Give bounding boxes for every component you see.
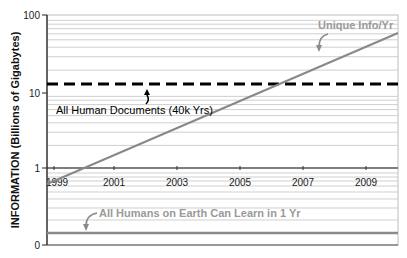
y-tick-label-1: 1 <box>34 163 40 174</box>
x-tick-label-2007: 2007 <box>292 177 315 188</box>
y-axis-title: INFORMATION (Billions of Gigabytes) <box>9 31 21 228</box>
y-tick-label-10: 10 <box>29 88 41 99</box>
annotation-unique-info: Unique Info/Yr <box>318 19 394 31</box>
information-chart: 100 10 1 0 INFORMATION (Billions of Giga… <box>0 0 407 258</box>
y-tick-label-0: 0 <box>34 240 40 251</box>
annotation-all-human-documents: All Human Documents (40k Yrs) <box>56 104 213 116</box>
y-ticks <box>42 15 47 245</box>
x-tick-label-2005: 2005 <box>229 177 252 188</box>
x-tick-label-2003: 2003 <box>166 177 189 188</box>
y-tick-label-100: 100 <box>23 10 40 21</box>
annotation-all-humans-learn: All Humans on Earth Can Learn in 1 Yr <box>99 207 301 219</box>
x-tick-label-2001: 2001 <box>103 177 126 188</box>
x-tick-label-2009: 2009 <box>355 177 378 188</box>
